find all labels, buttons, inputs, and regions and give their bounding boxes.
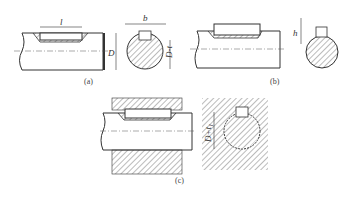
hub-bottom (112, 150, 182, 174)
panel-c: D+t₁ (c) (100, 98, 268, 185)
label-b: b (143, 13, 148, 23)
label-D-t: D-t (164, 46, 174, 59)
keyway-diagram: l D b D-t (a) h (b) D+t₁ (c) (0, 0, 364, 198)
label-D: D (107, 48, 115, 58)
key (125, 109, 171, 118)
label-D-t1: D+t₁ (203, 124, 213, 143)
shaft-cross-section (306, 36, 338, 68)
hub-top (112, 98, 182, 110)
caption-c: (c) (175, 176, 184, 185)
panel-a: l D b D-t (a) (14, 13, 174, 86)
key-section (236, 107, 248, 117)
label-h: h (293, 28, 298, 38)
keyway-slot (40, 33, 82, 40)
caption-b: (b) (270, 77, 280, 86)
caption-a: (a) (84, 77, 93, 86)
panel-b: h (b) (190, 18, 338, 86)
key (214, 24, 260, 35)
key-section (316, 27, 327, 37)
label-l: l (60, 17, 63, 27)
